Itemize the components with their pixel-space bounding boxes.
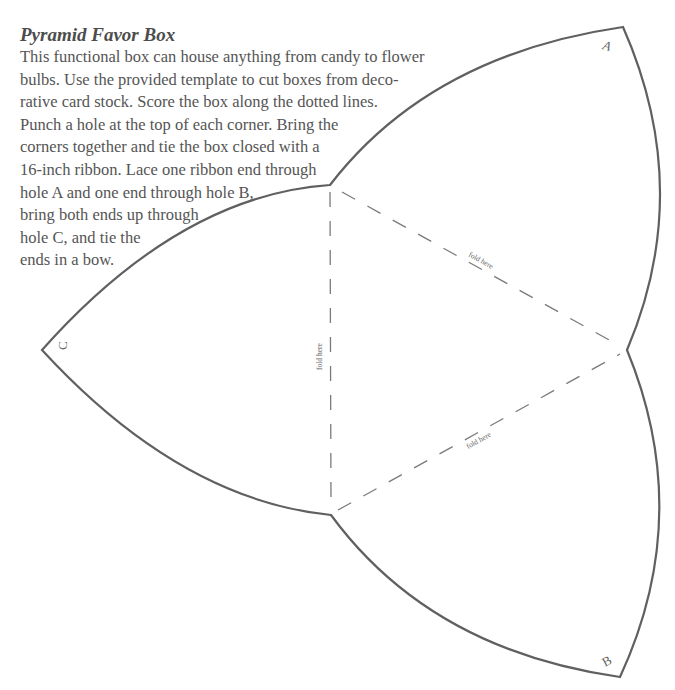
fold-line-left [330,192,331,508]
corner-label-b: B [599,652,614,669]
corner-label-c: C [55,341,70,350]
fold-label-left: fold here [315,342,324,370]
fold-label-upper-right: fold here [467,250,495,271]
fold-line-upper-right [342,192,620,346]
fold-line-lower-right [338,354,620,510]
pyramid-box-template: fold here fold here fold here A B C [0,0,675,690]
corner-label-a: A [600,37,613,54]
cut-outline [42,27,660,677]
fold-label-lower-right: fold here [465,430,493,451]
